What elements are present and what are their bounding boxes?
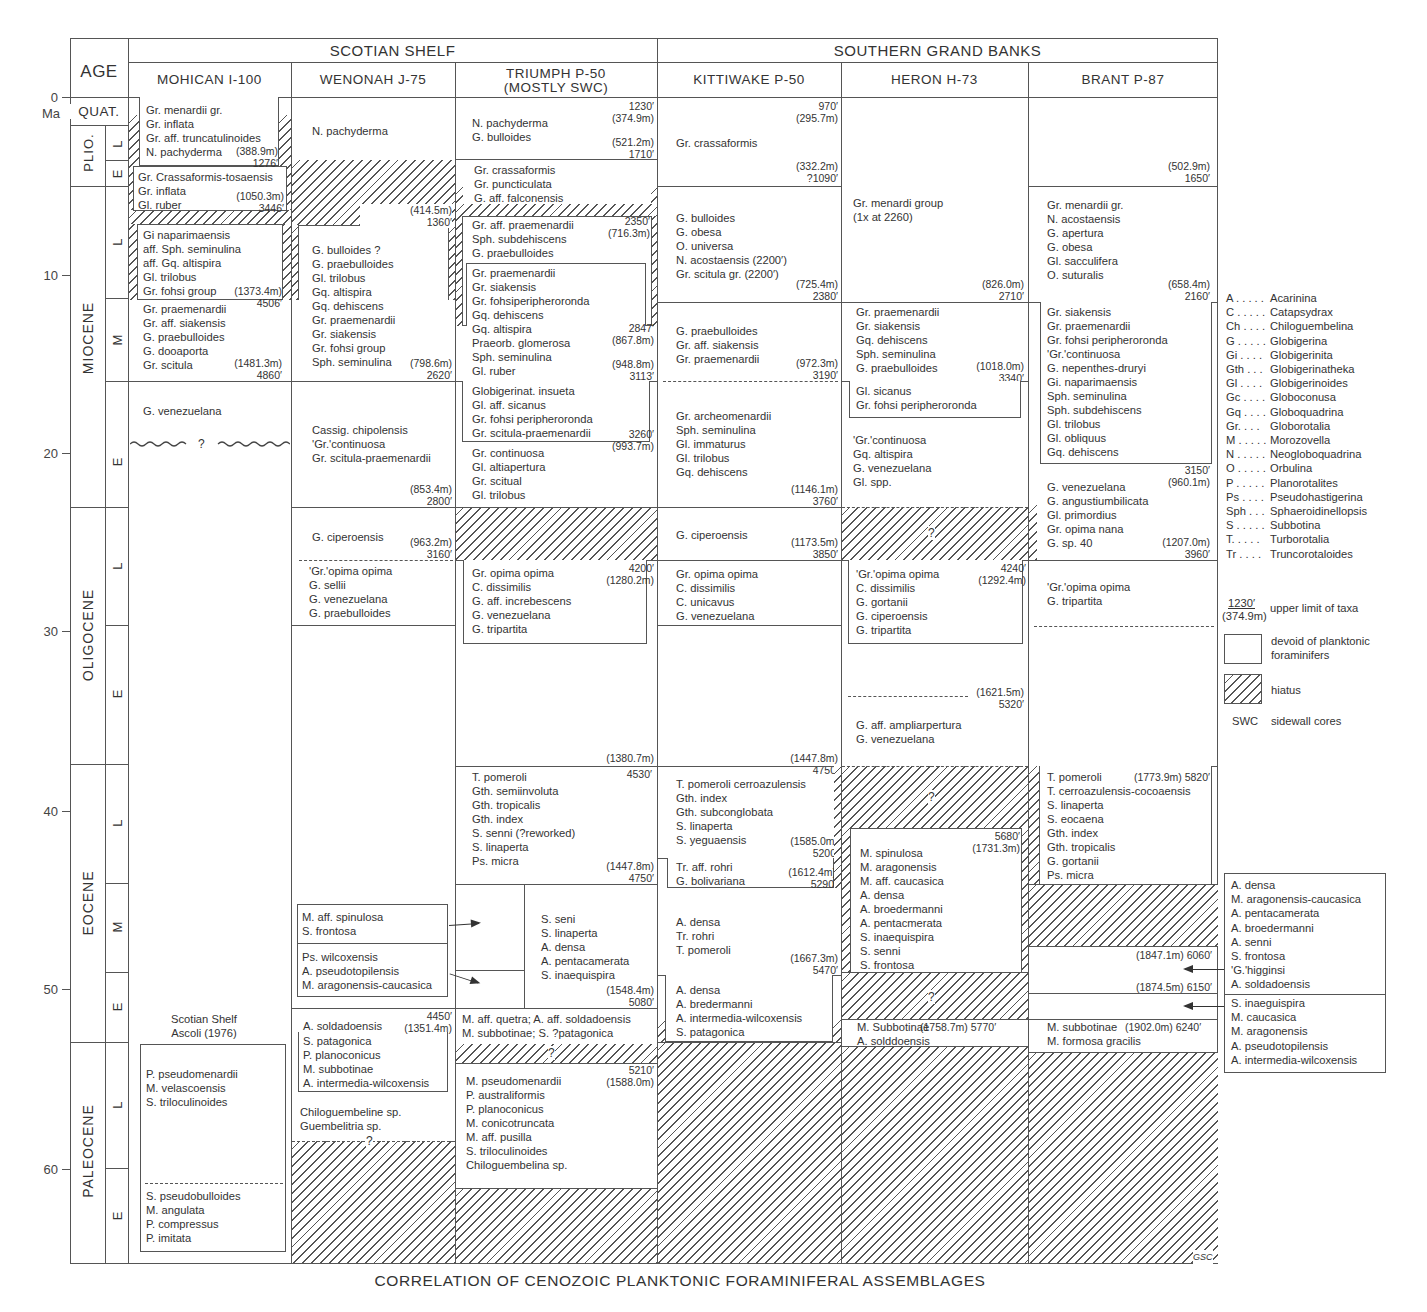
heron-b8-depth: (1758.7m) 5770′ [920, 1020, 996, 1034]
tick-20: 20 [28, 446, 58, 461]
triumph-b3: Gr. aff. praemenardii Sph. subdehiscens … [472, 218, 574, 260]
brant-b9-depth: (1902.0m) 6240′ [1125, 1020, 1201, 1034]
triumph-b2: Gr. crassaformis Gr. puncticulata G. aff… [474, 163, 563, 205]
kittiwake-b3-depth: (972.3m) 3190′ [740, 357, 838, 381]
heron-b6: G. aff. ampliarpertura G. venezuelana [856, 718, 962, 746]
triumph-b12-depth: 5210′ (1588.0m) [560, 1064, 654, 1088]
kittiwake-b1-top: 970′ (295.7m) [740, 100, 838, 124]
eocene-box-divider [1224, 994, 1386, 995]
boundary [455, 766, 657, 767]
hiatus [449, 225, 455, 300]
sub-oli-l: L [110, 555, 125, 577]
well-kittiwake: KITTIWAKE P-50 [657, 72, 841, 87]
triumph-b4-top: 2847′ (867.8m) [560, 322, 654, 346]
well-wenonah: WENONAH J-75 [291, 72, 455, 87]
boundary [455, 970, 524, 971]
kittiwake-b7-top: (1447.8m) 4750′ [740, 752, 838, 776]
kittiwake-b2: G. bulloides G. obesa O. universa N. aco… [676, 211, 787, 281]
sub-line [105, 1168, 128, 1169]
boundary [455, 159, 657, 160]
chart-title: CORRELATION OF CENOZOIC PLANKTONIC FORAM… [0, 1272, 1360, 1290]
age-header: AGE [70, 62, 128, 82]
boundary [657, 507, 841, 508]
wenonah-b3-depth: (853.4m) 2800′ [360, 483, 452, 507]
hiatus [842, 1046, 1028, 1263]
triumph-b3-depth: 2350′ (716.3m) [560, 215, 650, 239]
sub-line [105, 381, 128, 382]
hiatus [842, 766, 1028, 828]
dashed-boundary [842, 507, 1028, 508]
epoch-line [70, 1042, 128, 1043]
brant-b5: 'Gr.'opima opima G. tripartita [1047, 580, 1130, 608]
boundary [841, 302, 1028, 303]
kittiwake-b8-depth: (1612.4m) 5290′ [740, 866, 836, 890]
kittiwake-b1-bottom: (332.2m) ?1090′ [740, 160, 838, 184]
tick-0: 0 [28, 90, 58, 105]
tick-mark [62, 811, 70, 812]
heron-question-2: ? [928, 790, 935, 804]
hiatus [1029, 505, 1037, 560]
hiatus [456, 1044, 657, 1063]
legend-upper-limit-label: upper limit of taxa [1270, 601, 1358, 615]
brant-b2: Gr. menardii gr. N. acostaensis G. apert… [1047, 198, 1123, 282]
arrow-left [1185, 1006, 1225, 1007]
brant-b7-depth: (1847.1m) 6060′ [1100, 948, 1212, 962]
well-mohican: MOHICAN I-100 [128, 72, 291, 87]
legend-hiatus-swatch [1224, 674, 1262, 704]
kittiwake-b5-depth: (1173.5m) 3850′ [740, 536, 838, 560]
brant-b3: Gr. siakensis Gr. praemenardii Gr. fohsi… [1047, 305, 1168, 459]
dashed-boundary [1034, 626, 1214, 627]
heron-b7-depth: 5680′ (1731.3m) [920, 830, 1020, 854]
epoch-sub-divider [105, 125, 106, 1264]
boundary [128, 381, 291, 382]
boundary [841, 1046, 1028, 1047]
mohican-b6: P. pseudomenardii M. velascoensis S. tri… [146, 1067, 238, 1109]
epoch-line [70, 764, 128, 765]
mohican-b1-depth: (388.9m) 1276′ [200, 145, 278, 169]
boundary [657, 625, 841, 626]
hiatus [834, 766, 841, 888]
hiatus [456, 1188, 657, 1263]
tick-mark [62, 453, 70, 454]
triumph-b7: Gr. opima opima C. dissimilis G. aff. in… [472, 566, 571, 636]
sub-plio-l: L [110, 133, 125, 155]
tick-50: 50 [28, 982, 58, 997]
heron-b1-depth: (826.0m) 2710′ [920, 278, 1024, 302]
boundary [1028, 884, 1218, 885]
boundary [1028, 1052, 1218, 1053]
wenonah-b1-depth: (414.5m) 1360′ [360, 204, 452, 228]
unconformity-line [130, 438, 290, 450]
sub-oli-e: E [110, 683, 125, 705]
hiatus [1022, 828, 1028, 972]
sub-mio-m: M [110, 329, 125, 351]
kittiwake-b9: A. densa Tr. rohri T. pomeroli [676, 915, 731, 957]
sub-line [105, 883, 128, 884]
boundary [1028, 560, 1218, 561]
hiatus [842, 828, 850, 972]
legend-swc-key: SWC [1232, 714, 1258, 728]
region-scotian-shelf: SCOTIAN SHELF [128, 42, 657, 59]
heron-b5-depth: 4240′ (1292.4m) [920, 562, 1026, 586]
heron-question-1: ? [928, 526, 935, 540]
heron-b1: Gr. menardi group (1x at 2260) [853, 196, 943, 224]
brant-b8-depth: (1874.5m) 6150′ [1100, 980, 1212, 994]
wenonah-b8b: S. patagonica P. planoconicus M. subboti… [303, 1034, 429, 1090]
wenonah-b2-depth: (798.6m) 2620′ [360, 357, 452, 381]
triumph-b4-bottom: (948.8m) 3113′ [560, 358, 654, 382]
unconformity-question: ? [198, 437, 205, 451]
hiatus [842, 507, 1028, 560]
brant-b1-depth: (502.9m) 1650′ [1110, 160, 1210, 184]
heron-b8: M. Subbotinae A. solddoensis [857, 1020, 930, 1048]
hiatus [456, 507, 657, 560]
tick-mark [62, 97, 70, 98]
kittiwake-b1: Gr. crassaformis [676, 136, 757, 150]
mohican-b2-depth: (1050.3m) 3446′ [200, 190, 284, 214]
abbrev-values: Acarinina Catapsydrax Chiloguembelina Gl… [1270, 291, 1367, 561]
hiatus [1029, 884, 1218, 946]
tick-40: 40 [28, 804, 58, 819]
brant-b2-depth: (658.4m) 2160′ [1110, 278, 1210, 302]
boundary [657, 302, 841, 303]
kittiwake-b10: A. densa A. bredermanni A. intermedia-wi… [676, 983, 802, 1039]
sub-eoc-e: E [110, 996, 125, 1018]
boundary [1028, 946, 1218, 947]
